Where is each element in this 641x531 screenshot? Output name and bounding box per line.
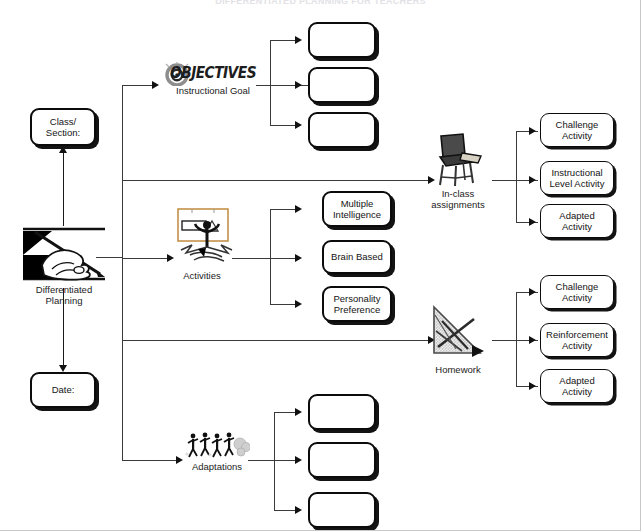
arrowhead-activities-2 [295, 254, 302, 262]
arrowhead-adaptations-3 [295, 506, 302, 514]
arrowhead-activities-1 [295, 205, 302, 213]
arrowhead-inclass-2 [529, 176, 536, 184]
arrowhead-homework-1 [529, 288, 536, 296]
adaptation-box-3[interactable] [308, 492, 376, 528]
inclass-box-1-label: Challenge Activity [554, 119, 601, 142]
connector-activities-spine [270, 209, 271, 304]
connector-goal-spine [270, 40, 271, 125]
arrowhead-inclass-1 [529, 127, 536, 135]
date-label: Date: [50, 384, 77, 396]
arrowhead-goal-1 [295, 36, 302, 44]
connector-root-stem [96, 257, 123, 258]
arrowhead-inclass-3 [529, 218, 536, 226]
goal-box-1[interactable] [308, 22, 376, 58]
inclass-box-3-label: Adapted Activity [557, 210, 596, 233]
school-desk-chair-icon [432, 133, 484, 187]
class-section-box[interactable]: Class/ Section: [30, 108, 96, 146]
connector-goal-1 [270, 40, 298, 41]
arrowhead-adaptations-1 [295, 408, 302, 416]
activity-box-2-label: Brain Based [329, 251, 385, 263]
homework-box-2-label: Reinforcement Activity [544, 329, 610, 352]
hand-writing-icon [22, 225, 106, 283]
homework-node: Homework [422, 305, 494, 375]
goal-box-2[interactable] [308, 67, 376, 103]
root-label: Differentiated Planning [14, 284, 114, 306]
connector-main-trunk [122, 85, 123, 460]
activity-box-3-label: Personality Preference [332, 293, 383, 316]
arrowhead-date [59, 365, 67, 372]
connector-activities-2 [270, 258, 298, 259]
activities-node: Activities [160, 207, 244, 281]
homework-box-1[interactable]: Challenge Activity [540, 275, 614, 309]
arrowhead-homework-3 [529, 382, 536, 390]
arrowhead-goal-3 [295, 121, 302, 129]
in-class-assignments-node: In-class assignments [422, 133, 494, 210]
activity-box-3[interactable]: Personality Preference [322, 286, 392, 322]
objectives-wordmark: OBJECTIVES [170, 64, 256, 82]
adaptation-box-1[interactable] [308, 394, 376, 430]
arrowhead-goal-2 [295, 81, 302, 89]
goal-box-3[interactable] [308, 112, 376, 148]
inclass-box-2[interactable]: Instructional Level Activity [540, 161, 614, 195]
connector-activities-1 [270, 209, 298, 210]
adaptations-label: Adaptations [176, 461, 258, 472]
instructional-goal-label: Instructional Goal [152, 85, 274, 96]
connector-branch-adaptations [122, 460, 179, 461]
connector-activities-3 [270, 304, 298, 305]
homework-box-2[interactable]: Reinforcement Activity [540, 323, 614, 357]
connector-branch-homework [122, 340, 432, 341]
arrowhead-adaptations-2 [295, 456, 302, 464]
connector-goal-3 [270, 125, 298, 126]
arrowhead-homework-2 [529, 336, 536, 344]
in-class-assignments-label: In-class assignments [422, 188, 494, 210]
connector-goal-2 [270, 85, 298, 86]
homework-box-3-label: Adapted Activity [557, 375, 596, 398]
running-people-icon [184, 432, 250, 460]
homework-box-3[interactable]: Adapted Activity [540, 369, 614, 403]
connector-branch-inclass [122, 180, 432, 181]
diagram-canvas: DIFFERENTIATED PLANNING FOR TEACHERS Cla… [0, 0, 641, 531]
adaptations-node: Adaptations [176, 432, 258, 472]
protractor-triangle-icon [428, 305, 488, 363]
activity-box-1-label: Multiple Intelligence [331, 198, 383, 221]
activity-box-2[interactable]: Brain Based [322, 240, 392, 274]
adaptation-box-2[interactable] [308, 442, 376, 478]
connector-activities-stem [232, 258, 274, 259]
connector-inclass-spine [516, 131, 517, 222]
arrowhead-class-section [59, 146, 67, 153]
activity-box-1[interactable]: Multiple Intelligence [322, 191, 392, 227]
class-section-label: Class/ Section: [44, 116, 82, 139]
arrowhead-activities-3 [295, 300, 302, 308]
inclass-box-2-label: Instructional Level Activity [548, 167, 607, 190]
inclass-box-3[interactable]: Adapted Activity [540, 204, 614, 238]
inclass-box-1[interactable]: Challenge Activity [540, 113, 614, 147]
connector-adaptations-spine [274, 412, 275, 510]
activities-label: Activities [160, 270, 244, 281]
presentation-person-icon [166, 207, 238, 269]
root-node: Differentiated Planning [14, 225, 114, 306]
page-header-title: DIFFERENTIATED PLANNING FOR TEACHERS [0, 0, 641, 4]
date-box[interactable]: Date: [30, 372, 96, 408]
instructional-goal-node: OBJECTIVES Instructional Goal [152, 62, 274, 96]
objectives-wordmark-wrap: OBJECTIVES [152, 62, 256, 84]
homework-box-1-label: Challenge Activity [554, 281, 601, 304]
homework-label: Homework [422, 364, 494, 375]
connector-branch-goal [122, 85, 155, 86]
